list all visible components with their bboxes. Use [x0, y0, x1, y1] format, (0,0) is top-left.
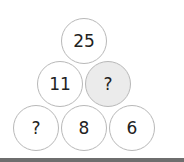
bottom-border	[0, 158, 184, 162]
circle-value: 25	[73, 31, 95, 51]
circle-middle-left: 11	[37, 61, 83, 107]
circle-value: 6	[127, 118, 138, 138]
circle-value: 11	[49, 74, 71, 94]
circle-bottom-right: 6	[109, 105, 155, 151]
circle-value: ?	[31, 118, 40, 138]
circle-bottom-middle: 8	[61, 105, 107, 151]
circle-top: 25	[61, 18, 107, 64]
circle-bottom-left-unknown: ?	[13, 105, 59, 151]
circle-value: ?	[103, 74, 112, 94]
circle-middle-right-unknown: ?	[85, 61, 131, 107]
circle-value: 8	[79, 118, 90, 138]
